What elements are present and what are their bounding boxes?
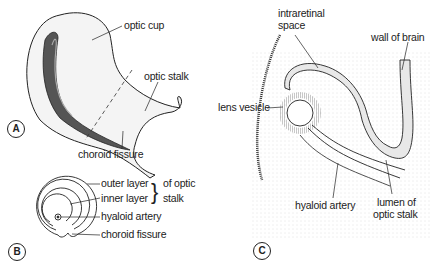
label-inner-layer: inner layer (101, 193, 148, 204)
label-hyaloid-artery-b: hyaloid artery (101, 211, 161, 222)
label-of-optic: of optic (163, 178, 195, 189)
label-lumen-of: lumen of (377, 197, 416, 208)
panel-badge-a: A (7, 120, 25, 138)
label-optic-stalk-c: optic stalk (373, 209, 418, 220)
panel-badge-c: C (253, 242, 271, 260)
panel-badge-b: B (8, 243, 26, 261)
label-outer-layer: outer layer (101, 178, 148, 189)
label-intraretinal: intraretinal (278, 8, 325, 19)
label-lens-vesicle: lens vesicle (218, 102, 270, 113)
diagram-artwork (0, 0, 430, 266)
panel-b-drawing (37, 176, 100, 237)
label-choroid-fissure-a: choroid fissure (78, 149, 143, 160)
label-wall-of-brain: wall of brain (371, 32, 424, 43)
brace: } (151, 180, 158, 204)
label-space: space (278, 20, 305, 31)
label-choroid-fissure-b: choroid fissure (101, 229, 166, 240)
label-optic-stalk-a: optic stalk (144, 71, 189, 82)
label-hyaloid-artery-c: hyaloid artery (295, 200, 355, 211)
label-stalk: stalk (163, 193, 184, 204)
label-optic-cup: optic cup (124, 20, 164, 31)
